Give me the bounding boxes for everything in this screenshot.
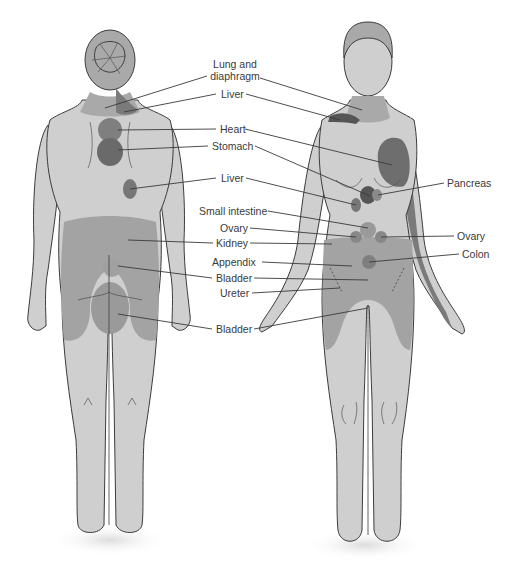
label-lung-diaphragm: Lung and diaphragm	[207, 58, 263, 82]
label-stomach: Stomach	[212, 140, 253, 152]
label-liver-back: Liver	[221, 172, 244, 184]
label-ovary-left: Ovary	[220, 222, 248, 234]
back-bladder-zone-lower	[91, 282, 129, 334]
back-stomach-zone	[97, 138, 123, 166]
label-small-intestine: Small intestine	[199, 205, 267, 217]
back-figure	[28, 30, 191, 556]
label-kidney: Kidney	[216, 237, 248, 249]
back-bladder-zone-upper	[103, 259, 121, 277]
front-right-arm	[260, 125, 328, 332]
label-heart: Heart	[220, 123, 246, 135]
front-small-intestine-zone	[360, 222, 376, 238]
label-appendix: Appendix	[212, 256, 256, 268]
label-liver-shoulder: Liver	[221, 88, 244, 100]
label-ovary-right: Ovary	[457, 230, 485, 242]
label-colon: Colon	[462, 248, 489, 260]
label-bladder-lower: Bladder	[216, 323, 252, 335]
label-ureter: Ureter	[220, 287, 249, 299]
referred-pain-diagram	[0, 0, 508, 574]
label-text: Lung and diaphragm	[207, 58, 263, 82]
front-figure	[260, 22, 465, 561]
label-bladder-upper: Bladder	[216, 272, 252, 284]
label-pancreas: Pancreas	[447, 177, 491, 189]
